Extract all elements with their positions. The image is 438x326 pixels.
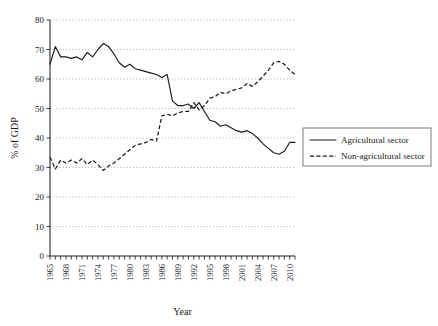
line-chart: 01020304050607080 1965196819711974197719… — [0, 0, 438, 326]
y-tick-label: 30 — [35, 163, 45, 173]
x-tick-label: 1995 — [205, 264, 215, 281]
x-tick-label: 1965 — [45, 264, 55, 281]
y-tick-label: 20 — [35, 192, 45, 202]
x-tick-label: 1983 — [141, 264, 151, 281]
y-axis-ticks-group: 01020304050607080 — [35, 15, 50, 261]
y-tick-label: 40 — [35, 133, 45, 143]
y-tick-label: 60 — [35, 74, 45, 84]
y-tick-label: 0 — [40, 251, 45, 261]
x-tick-label: 1974 — [93, 263, 103, 281]
x-tick-label: 1989 — [173, 264, 183, 281]
x-tick-label: 2004 — [253, 263, 263, 281]
chart-legend[interactable]: Agricultural sector Non-agricultural sec… — [303, 128, 431, 166]
x-tick-label: 1977 — [109, 264, 119, 281]
x-tick-label: 2010 — [285, 264, 295, 281]
x-tick-label: 1992 — [189, 264, 199, 281]
x-tick-label: 2001 — [237, 264, 247, 281]
y-axis-title: % of GDP — [9, 117, 20, 159]
chart-figure: 01020304050607080 1965196819711974197719… — [0, 0, 438, 326]
x-tick-label: 2007 — [269, 264, 279, 281]
y-tick-label: 80 — [35, 15, 45, 25]
legend-label-agricultural-sector: Agricultural sector — [341, 135, 409, 145]
y-tick-label: 50 — [35, 104, 45, 114]
legend-label-non-agricultural-sector: Non-agricultural sector — [341, 151, 425, 161]
y-tick-label: 70 — [35, 45, 45, 55]
x-axis-title: Year — [173, 306, 192, 317]
series-line-non-agricultural-sector — [50, 61, 295, 170]
x-tick-label: 1998 — [221, 264, 231, 281]
x-tick-label: 1980 — [125, 264, 135, 281]
y-tick-label: 10 — [35, 222, 45, 232]
x-tick-label: 1968 — [61, 264, 71, 281]
x-tick-label: 1971 — [77, 264, 87, 281]
x-tick-label: 1986 — [157, 264, 167, 281]
x-axis-ticks-group: 1965196819711974197719801983198619891992… — [45, 256, 295, 281]
